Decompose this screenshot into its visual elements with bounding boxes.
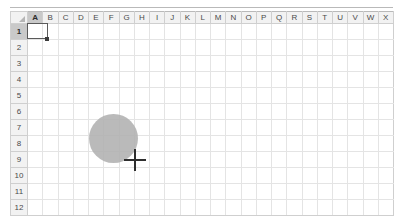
cell-F9[interactable] (104, 152, 119, 168)
cell-H5[interactable] (134, 88, 149, 104)
cell-D10[interactable] (73, 168, 88, 184)
cell-L4[interactable] (195, 72, 210, 88)
column-header-r[interactable]: R (287, 12, 302, 24)
cell-O2[interactable] (241, 40, 256, 56)
cell-G1[interactable] (119, 24, 134, 40)
cell-N5[interactable] (226, 88, 241, 104)
cell-O7[interactable] (241, 120, 256, 136)
cell-G9[interactable] (119, 152, 134, 168)
cell-N6[interactable] (226, 104, 241, 120)
cell-N12[interactable] (226, 200, 241, 216)
cell-K10[interactable] (180, 168, 195, 184)
cell-S8[interactable] (302, 136, 317, 152)
cell-Q5[interactable] (272, 88, 287, 104)
cell-E3[interactable] (89, 56, 104, 72)
cell-N7[interactable] (226, 120, 241, 136)
cell-C2[interactable] (58, 40, 73, 56)
cell-O9[interactable] (241, 152, 256, 168)
cell-J11[interactable] (165, 184, 180, 200)
cell-N2[interactable] (226, 40, 241, 56)
cell-H2[interactable] (134, 40, 149, 56)
cell-L6[interactable] (195, 104, 210, 120)
cell-B12[interactable] (43, 200, 58, 216)
cell-P3[interactable] (256, 56, 271, 72)
cell-H12[interactable] (134, 200, 149, 216)
cell-F12[interactable] (104, 200, 119, 216)
row-header-8[interactable]: 8 (11, 136, 28, 152)
cell-R2[interactable] (287, 40, 302, 56)
column-header-i[interactable]: I (150, 12, 165, 24)
cell-A12[interactable] (28, 200, 43, 216)
cell-X5[interactable] (378, 88, 393, 104)
cell-X11[interactable] (378, 184, 393, 200)
row-header-3[interactable]: 3 (11, 56, 28, 72)
cell-M1[interactable] (211, 24, 226, 40)
cell-M2[interactable] (211, 40, 226, 56)
cell-E11[interactable] (89, 184, 104, 200)
cell-W1[interactable] (363, 24, 378, 40)
cell-W12[interactable] (363, 200, 378, 216)
cell-B1[interactable] (43, 24, 58, 40)
cell-S4[interactable] (302, 72, 317, 88)
cell-U10[interactable] (333, 168, 348, 184)
cell-X3[interactable] (378, 56, 393, 72)
cell-T2[interactable] (317, 40, 332, 56)
cell-E4[interactable] (89, 72, 104, 88)
cell-U8[interactable] (333, 136, 348, 152)
cell-H6[interactable] (134, 104, 149, 120)
cell-I4[interactable] (150, 72, 165, 88)
cell-F7[interactable] (104, 120, 119, 136)
cell-K12[interactable] (180, 200, 195, 216)
cell-F8[interactable] (104, 136, 119, 152)
cell-D4[interactable] (73, 72, 88, 88)
cell-U7[interactable] (333, 120, 348, 136)
row-header-7[interactable]: 7 (11, 120, 28, 136)
cell-T12[interactable] (317, 200, 332, 216)
cell-I9[interactable] (150, 152, 165, 168)
cell-D3[interactable] (73, 56, 88, 72)
cell-E9[interactable] (89, 152, 104, 168)
cell-V11[interactable] (348, 184, 363, 200)
cell-B2[interactable] (43, 40, 58, 56)
cell-U5[interactable] (333, 88, 348, 104)
cell-J6[interactable] (165, 104, 180, 120)
cell-R6[interactable] (287, 104, 302, 120)
cell-P10[interactable] (256, 168, 271, 184)
cell-A5[interactable] (28, 88, 43, 104)
cell-K3[interactable] (180, 56, 195, 72)
cell-D9[interactable] (73, 152, 88, 168)
column-header-g[interactable]: G (119, 12, 134, 24)
cell-V9[interactable] (348, 152, 363, 168)
cell-D12[interactable] (73, 200, 88, 216)
cell-Q9[interactable] (272, 152, 287, 168)
cell-E1[interactable] (89, 24, 104, 40)
row-header-9[interactable]: 9 (11, 152, 28, 168)
cell-E10[interactable] (89, 168, 104, 184)
cell-V2[interactable] (348, 40, 363, 56)
cell-S12[interactable] (302, 200, 317, 216)
cell-S5[interactable] (302, 88, 317, 104)
column-header-w[interactable]: W (363, 12, 378, 24)
cell-F11[interactable] (104, 184, 119, 200)
cell-I8[interactable] (150, 136, 165, 152)
cell-K8[interactable] (180, 136, 195, 152)
cell-P5[interactable] (256, 88, 271, 104)
column-header-b[interactable]: B (43, 12, 58, 24)
cell-V5[interactable] (348, 88, 363, 104)
cell-F4[interactable] (104, 72, 119, 88)
cell-G10[interactable] (119, 168, 134, 184)
worksheet-grid[interactable]: ABCDEFGHIJKLMNOPQRSTUVWX 123456789101112 (10, 11, 393, 206)
cell-K11[interactable] (180, 184, 195, 200)
cell-E6[interactable] (89, 104, 104, 120)
cell-I5[interactable] (150, 88, 165, 104)
cell-K4[interactable] (180, 72, 195, 88)
cell-U12[interactable] (333, 200, 348, 216)
column-header-o[interactable]: O (241, 12, 256, 24)
cell-E8[interactable] (89, 136, 104, 152)
row-header-4[interactable]: 4 (11, 72, 28, 88)
cell-X8[interactable] (378, 136, 393, 152)
cell-T7[interactable] (317, 120, 332, 136)
cell-S10[interactable] (302, 168, 317, 184)
column-header-e[interactable]: E (89, 12, 104, 24)
cell-T4[interactable] (317, 72, 332, 88)
